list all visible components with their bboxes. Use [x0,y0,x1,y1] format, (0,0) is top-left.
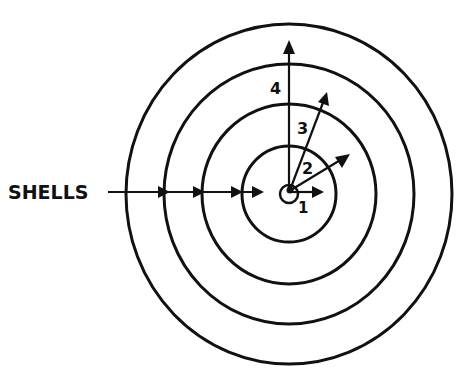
arrow-label-1: 1 [298,199,308,217]
arrowhead-icon [252,186,264,198]
shells-label: SHELLS [8,181,88,203]
diagram-canvas: SHELLS 1 2 3 4 [0,0,466,380]
arrow-label-4: 4 [270,79,281,98]
arrowhead-icon [283,40,295,54]
concentric-rings-diagram: SHELLS 1 2 3 4 [0,0,466,380]
impact-point [287,187,294,194]
arrow-label-2: 2 [302,159,313,178]
arrow-4 [283,40,295,190]
arrowhead-icon [312,186,324,198]
arrow-label-3: 3 [297,119,308,138]
arrowhead-icon [318,92,329,106]
